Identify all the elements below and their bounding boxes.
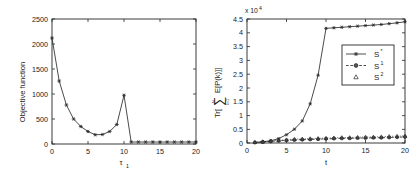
legend-box bbox=[342, 45, 394, 85]
left-y-ticks bbox=[52, 19, 196, 144]
left-data-series bbox=[50, 36, 198, 143]
left-x-tick-label: 5 bbox=[86, 147, 90, 156]
left-y-tick-label: 0 bbox=[44, 140, 48, 149]
left-y-tick-label: 1500 bbox=[32, 65, 48, 74]
legend-label: S bbox=[374, 73, 379, 82]
left-y-tick-label: 1000 bbox=[32, 90, 48, 99]
right-x-tick-label: 15 bbox=[362, 146, 370, 155]
legend-label-superscript: * bbox=[381, 48, 383, 54]
legend-label-superscript: 1 bbox=[381, 60, 384, 66]
right-y-tick-label: 2 bbox=[239, 84, 243, 93]
right-y-axis-title-body: E[P(k)]] bbox=[213, 68, 222, 93]
right-y-tick-label: 1 bbox=[239, 111, 243, 120]
right-y-tick-label: 1.5 bbox=[233, 97, 243, 106]
right-y-multiplier: x 10 4 bbox=[245, 5, 262, 15]
left-x-ticks bbox=[52, 19, 196, 144]
right-x-tick-label: 0 bbox=[245, 146, 249, 155]
data-point-marker bbox=[354, 64, 358, 68]
left-x-tick-label: 20 bbox=[192, 147, 200, 156]
right-x-tick-label: 10 bbox=[322, 146, 330, 155]
right-y-tick-label: 3 bbox=[239, 56, 243, 65]
right-y-tick-label: 2.5 bbox=[233, 70, 243, 79]
left-x-tick-label: 10 bbox=[120, 147, 128, 156]
right-chart-panel: Tr[ ∑ N k=1 E[P(k)]] x 10 4 4.5 4 3.5 3 … bbox=[209, 0, 418, 177]
right-chart-svg: Tr[ ∑ N k=1 E[P(k)]] x 10 4 4.5 4 3.5 3 … bbox=[209, 0, 418, 177]
legend-label-superscript: 2 bbox=[381, 71, 384, 77]
chart-legend[interactable]: S*S1S2 bbox=[342, 45, 394, 85]
left-x-axis-title-sub: 1 bbox=[126, 163, 129, 169]
right-y-axis-title-prefix: Tr[ bbox=[213, 108, 222, 118]
left-x-axis-title-main: τ bbox=[120, 158, 123, 167]
left-y-tick-label: 2500 bbox=[32, 15, 48, 24]
right-y-multiplier-base: x 10 bbox=[245, 7, 258, 14]
right-y-tick-label: 3.5 bbox=[233, 42, 243, 51]
right-y-axis-sum-lower: k=1 bbox=[226, 99, 230, 105]
left-x-tick-labels: 0 5 10 15 20 bbox=[50, 147, 200, 156]
right-y-tick-labels: 4.5 4 3.5 3 2.5 2 1.5 1 0.5 0 bbox=[233, 15, 243, 148]
right-y-tick-label: 4 bbox=[239, 28, 243, 37]
right-x-tick-label: 20 bbox=[401, 146, 409, 155]
right-y-axis-sum-upper: N bbox=[212, 100, 216, 103]
left-y-tick-label: 500 bbox=[36, 115, 48, 124]
legend-label: S bbox=[374, 50, 379, 59]
legend-label: S bbox=[374, 62, 379, 71]
left-y-tick-labels: 2500 2000 1500 1000 500 0 bbox=[32, 15, 48, 149]
right-y-multiplier-exp: 4 bbox=[259, 5, 262, 11]
right-y-axis-title: Tr[ ∑ N k=1 E[P(k)]] bbox=[211, 68, 230, 118]
left-y-axis-title: Objective function bbox=[18, 62, 27, 122]
right-x-tick-label: 5 bbox=[285, 146, 289, 155]
right-x-axis-title: t bbox=[325, 158, 328, 167]
left-plot-frame bbox=[52, 19, 196, 144]
right-y-tick-label: 4.5 bbox=[233, 15, 243, 24]
left-chart-svg: Objective function 2500 2000 1500 1000 5… bbox=[0, 0, 209, 177]
right-y-tick-label: 0.5 bbox=[233, 125, 243, 134]
left-chart-panel: Objective function 2500 2000 1500 1000 5… bbox=[0, 0, 209, 177]
series-path bbox=[52, 38, 196, 142]
figure-root: Objective function 2500 2000 1500 1000 5… bbox=[0, 0, 418, 177]
left-x-tick-label: 15 bbox=[156, 147, 164, 156]
right-x-tick-labels: 0 5 10 15 20 bbox=[245, 146, 409, 155]
right-y-tick-label: 0 bbox=[239, 139, 243, 148]
left-y-tick-label: 2000 bbox=[32, 40, 48, 49]
left-x-tick-label: 0 bbox=[50, 147, 54, 156]
left-x-axis-title: τ 1 bbox=[120, 158, 130, 169]
